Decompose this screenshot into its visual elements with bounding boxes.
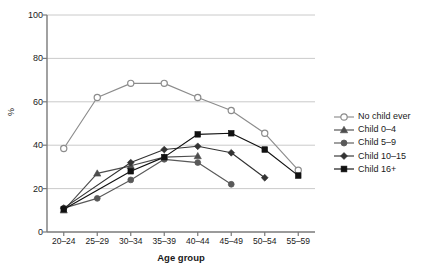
data-point-marker	[61, 145, 67, 151]
data-point-marker	[194, 143, 201, 150]
data-point-marker	[161, 154, 167, 160]
chart-legend: No child everChild 0–4Child 5–9Child 10–…	[333, 110, 429, 176]
legend-label: No child ever	[358, 112, 411, 121]
data-point-marker	[61, 206, 67, 212]
data-point-marker	[128, 177, 134, 183]
data-point-marker	[341, 113, 347, 119]
legend-marker-filled-square-icon	[333, 163, 355, 175]
data-point-marker	[228, 130, 234, 136]
data-point-marker	[341, 140, 347, 146]
y-axis-tick-label: 60	[17, 97, 43, 106]
data-point-marker	[128, 168, 134, 174]
legend-item[interactable]: Child 0–4	[333, 123, 429, 136]
legend-label: Child 0–4	[358, 125, 396, 134]
y-axis-tick-label: 100	[17, 11, 43, 20]
figure-caption	[6, 265, 426, 273]
legend-label: Child 10–15	[358, 152, 406, 161]
legend-label: Child 5–9	[358, 138, 396, 147]
data-point-marker	[341, 166, 347, 172]
legend-item[interactable]: Child 10–15	[333, 150, 429, 163]
legend-item[interactable]: Child 16+	[333, 163, 429, 176]
series-line	[64, 159, 232, 208]
data-point-marker	[341, 153, 348, 160]
data-point-marker	[262, 147, 268, 153]
y-axis-tick-labels: 020406080100	[13, 15, 43, 232]
data-point-marker	[262, 130, 268, 136]
y-axis-tick-label: 20	[17, 184, 43, 193]
data-point-marker	[128, 80, 134, 86]
legend-item[interactable]: No child ever	[333, 110, 429, 123]
legend-marker-filled-circle-icon	[333, 137, 355, 149]
figure: 020406080100 % 20–2425–2930–3435–3940–44…	[0, 0, 429, 273]
data-point-marker	[195, 160, 201, 166]
y-axis-title: %	[7, 108, 16, 116]
gridlines	[47, 15, 315, 189]
x-axis-title: Age group	[47, 252, 315, 263]
data-point-marker	[161, 146, 168, 153]
y-axis-tick-label: 40	[17, 141, 43, 150]
x-axis-tick-label: 55–59	[278, 236, 318, 246]
legend-item[interactable]: Child 5–9	[333, 136, 429, 149]
data-point-marker	[228, 181, 234, 187]
x-axis-tick-labels: 20–2425–2930–3435–3940–4445–4950–5455–59	[47, 236, 315, 248]
legend-label: Child 16+	[358, 165, 396, 174]
y-axis-tick-label: 80	[17, 54, 43, 63]
data-point-marker	[228, 107, 234, 113]
data-point-marker	[161, 80, 167, 86]
data-point-marker	[295, 173, 301, 179]
data-point-marker	[195, 132, 201, 138]
y-axis-tick-label: 0	[17, 228, 43, 237]
legend-marker-diamond-icon	[333, 150, 355, 162]
data-point-marker	[94, 195, 100, 201]
legend-marker-triangle-icon	[333, 124, 355, 136]
series-markers	[60, 80, 301, 213]
data-point-marker	[94, 94, 100, 100]
data-point-marker	[295, 167, 301, 173]
data-point-marker	[195, 94, 201, 100]
legend-marker-open-circle-icon	[333, 111, 355, 123]
